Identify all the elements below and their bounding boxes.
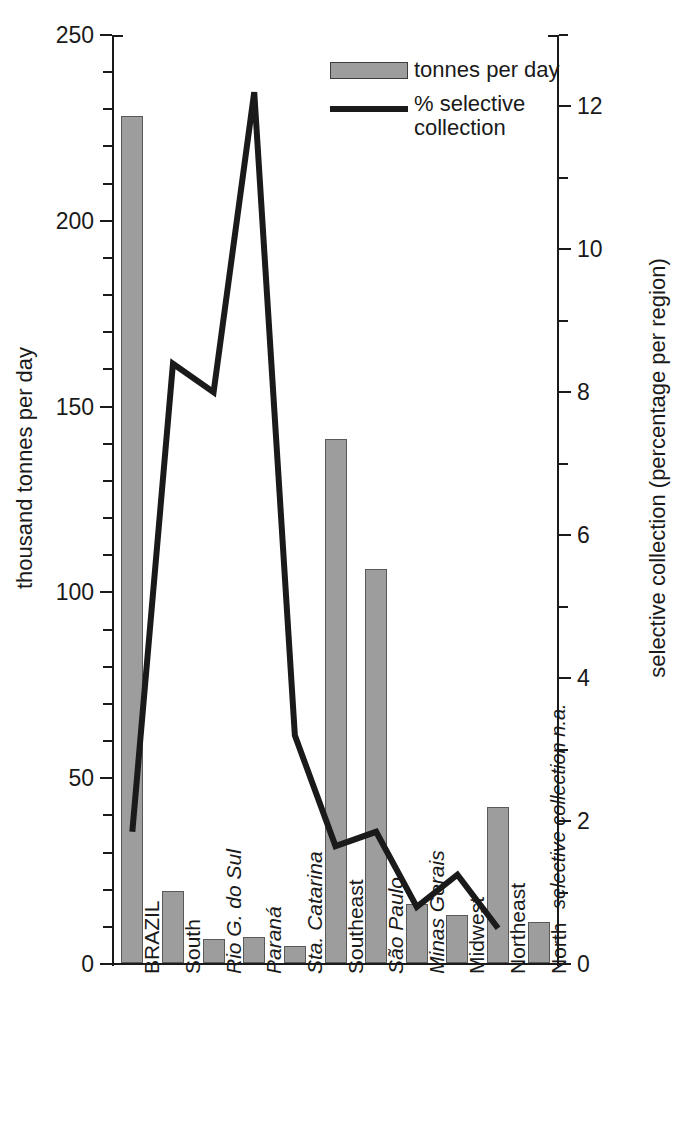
right-axis-title: selective collection (percentage per reg…	[645, 238, 671, 698]
right-axis-minor-tick	[559, 34, 568, 36]
left-axis-minor-tick	[103, 257, 112, 259]
left-axis-tick-label: 100	[56, 579, 94, 606]
selective-collection-line	[132, 92, 498, 928]
left-axis-minor-tick	[103, 145, 112, 147]
right-axis-minor-tick	[559, 463, 568, 465]
left-axis-tick-label: 50	[68, 765, 94, 792]
x-axis-tick-label: São Paulo	[384, 877, 408, 974]
right-axis-major-tick	[559, 391, 571, 393]
plot-area: 050100150200250 024681012 selective coll…	[112, 35, 559, 965]
right-axis-tick-label: 8	[577, 379, 590, 406]
x-axis-tick-label: BRAZIL	[140, 900, 164, 974]
left-axis-minor-tick	[103, 368, 112, 370]
left-axis-major-tick	[100, 591, 112, 593]
right-axis-major-tick	[559, 105, 571, 107]
annotation-selective-collection-na: selective collection n.a.	[547, 703, 570, 909]
x-axis-tick-label: Midwest	[465, 897, 489, 974]
x-axis-tick-label: Paraná	[262, 906, 286, 974]
legend-label-tonnes-per-day: tonnes per day	[414, 58, 560, 83]
right-axis-tick-label: 6	[577, 522, 590, 549]
left-axis-tick-label: 200	[56, 207, 94, 234]
chart-figure: thousand tonnes per day selective collec…	[0, 0, 691, 1123]
left-axis-tick-label: 0	[81, 951, 94, 978]
legend-label-line1: % selective	[414, 91, 525, 116]
x-axis-tick-label: Southeast	[344, 879, 368, 974]
right-axis-tick-label: 4	[577, 665, 590, 692]
chart-legend: tonnes per day % selectivecollection	[330, 58, 560, 150]
left-axis-minor-tick	[103, 852, 112, 854]
left-axis-minor-tick	[103, 71, 112, 73]
left-axis-minor-tick	[103, 740, 112, 742]
left-axis-minor-tick	[103, 294, 112, 296]
left-axis-minor-tick	[103, 666, 112, 668]
left-axis-major-tick	[100, 777, 112, 779]
x-axis-tick-label: South	[181, 919, 205, 974]
right-axis-major-tick	[559, 534, 571, 536]
legend-item-selective-collection: % selectivecollection	[330, 92, 560, 141]
right-axis-tick-label: 12	[577, 93, 603, 120]
left-axis-minor-tick	[103, 108, 112, 110]
legend-label-line2: collection	[414, 115, 506, 140]
right-axis-minor-tick	[559, 177, 568, 179]
left-axis-minor-tick	[103, 926, 112, 928]
legend-item-tonnes-per-day: tonnes per day	[330, 58, 560, 83]
right-axis-tick-label: 0	[577, 951, 590, 978]
x-axis-tick-label: Rio G. do Sul	[222, 849, 246, 974]
left-axis-major-tick	[100, 963, 112, 965]
left-axis-tick-label: 250	[56, 22, 94, 49]
x-axis-tick-label: North	[547, 923, 571, 974]
legend-line-swatch-wrap	[330, 92, 414, 112]
left-axis-minor-tick	[103, 629, 112, 631]
x-axis-tick-label: Minas Gerais	[425, 850, 449, 974]
left-axis-minor-tick	[103, 889, 112, 891]
right-axis-minor-tick	[559, 320, 568, 322]
left-axis-major-tick	[100, 406, 112, 408]
x-axis-tick-label: Sta. Catarina	[303, 851, 327, 974]
right-axis-tick-label: 2	[577, 808, 590, 835]
left-axis-title: thousand tonnes per day	[12, 238, 38, 698]
x-axis-tick-label: Northeast	[506, 883, 530, 974]
right-axis-tick-label: 10	[577, 236, 603, 263]
left-axis-minor-tick	[103, 517, 112, 519]
bar-swatch-icon	[330, 62, 408, 79]
right-axis-major-tick	[559, 248, 571, 250]
left-axis-minor-tick	[103, 331, 112, 333]
right-axis-minor-tick	[559, 606, 568, 608]
right-axis-major-tick	[559, 677, 571, 679]
legend-label-selective-collection: % selectivecollection	[414, 92, 525, 141]
left-axis-minor-tick	[103, 480, 112, 482]
left-axis-minor-tick	[103, 443, 112, 445]
left-axis-minor-tick	[103, 183, 112, 185]
line-series	[112, 35, 559, 966]
left-axis-minor-tick	[103, 814, 112, 816]
left-axis-tick-label: 150	[56, 393, 94, 420]
left-axis-minor-tick	[103, 554, 112, 556]
line-swatch-icon	[330, 106, 408, 112]
legend-bar-swatch-wrap	[330, 58, 414, 79]
left-axis-major-tick	[100, 34, 112, 36]
left-axis-major-tick	[100, 220, 112, 222]
left-axis-minor-tick	[103, 703, 112, 705]
